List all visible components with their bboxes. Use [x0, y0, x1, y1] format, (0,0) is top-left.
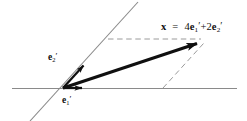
figure-canvas: [0, 0, 247, 121]
vector-decomposition-figure: x=4e1′+2e2′ e2′ e1′: [0, 0, 247, 121]
oblique-axis-line: [30, 2, 138, 121]
dashed-oblique-projection-line: [163, 44, 204, 89]
